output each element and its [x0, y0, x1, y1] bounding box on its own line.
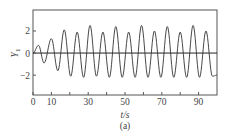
- y-tick-label: 2: [25, 26, 30, 36]
- figure-caption: (a): [120, 121, 131, 132]
- y-tick-label: −2: [20, 71, 30, 81]
- x-axis-label: t/s: [121, 110, 130, 120]
- series-y1-line: [33, 25, 217, 77]
- x-tick-label: 90: [194, 97, 204, 107]
- x-tick-label: 70: [157, 97, 167, 107]
- y-axis-label: Y1: [10, 48, 22, 57]
- y-axis-ticks: −202: [20, 26, 36, 80]
- x-axis-ticks: 01030507090: [31, 92, 204, 107]
- x-tick-label: 30: [83, 97, 93, 107]
- x-tick-label: 0: [31, 97, 36, 107]
- y-axis-label-sub: 1: [14, 48, 22, 52]
- x-tick-label: 50: [120, 97, 130, 107]
- chart: 01030507090 −202 Y1 t/s (a): [0, 0, 229, 136]
- y-tick-label: 0: [25, 49, 30, 59]
- x-tick-label: 10: [47, 97, 57, 107]
